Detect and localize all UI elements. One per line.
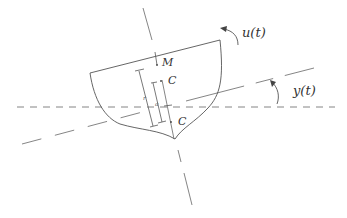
ship-centerline-top [143,8,152,40]
u-arrowhead-icon [220,26,227,32]
dimension-r-bottom-tick [150,125,158,127]
label-dimension-a: a [155,101,159,107]
ship-diagram [0,0,347,218]
label-center-lower: C [178,116,186,127]
label-center-upper: C [168,75,176,86]
label-input-u: u(t) [242,26,266,39]
ship-centerline-bottom-2 [184,173,192,205]
dimension-r-line [139,71,153,126]
dimension-a-top-tick [151,82,157,83]
center-upper-point [160,80,162,82]
metacenter-tick [155,52,157,65]
metacenter-point [156,64,158,66]
waterline-intersection-tick [164,105,172,106]
label-metacenter: M [162,57,173,68]
ship-centerline-bottom-1 [178,150,181,162]
ship-centerline-inner [162,80,174,139]
center-lower-point [170,121,172,123]
u-rotation-arc [224,29,238,45]
label-output-y: y(t) [293,84,316,97]
dimension-r-top-tick [135,69,144,71]
label-dimension-r: r [143,95,146,101]
